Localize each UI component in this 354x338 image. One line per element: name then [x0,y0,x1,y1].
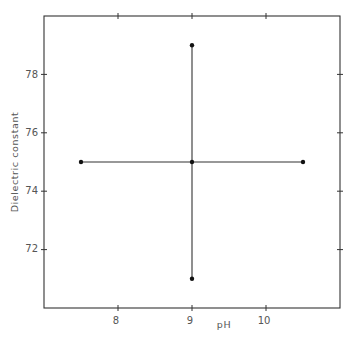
y-tick-label-72: 72 [25,243,38,254]
x-axis-title: pH [217,319,231,330]
y-tick-label-74: 74 [25,185,38,196]
x-tick-label-8: 8 [113,315,119,326]
y-axis-title: Dielectric constant [9,112,20,213]
x-tick-label-9: 9 [187,315,193,326]
data-point-dielectric-high [190,43,194,47]
data-series [79,43,305,281]
x-tick-labels: 8 9 10 [113,315,271,326]
x-tick-label-10: 10 [258,315,271,326]
y-tick-label-76: 76 [25,127,38,138]
data-point-center [190,160,194,164]
y-tick-labels: 78 76 74 72 [25,69,38,254]
data-point-dielectric-low [190,277,194,281]
chart: 8 9 10 78 76 74 72 pH Dielectric constan… [0,0,354,338]
data-point-pH-low [79,160,83,164]
y-tick-label-78: 78 [25,69,38,80]
data-point-pH-high [301,160,305,164]
